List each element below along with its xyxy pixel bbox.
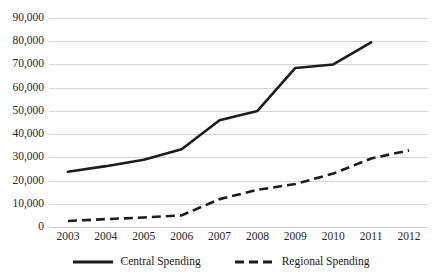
x-axis-tick-label: 2008	[246, 231, 269, 243]
y-axis-tick-label: 60,000	[0, 82, 44, 94]
series-line-central-spending	[68, 42, 371, 171]
line-chart: 90,00080,00070,00060,00050,00040,00030,0…	[0, 0, 443, 279]
x-axis-tick-label: 2006	[170, 231, 193, 243]
legend-label-central-spending: Central Spending	[120, 256, 200, 268]
x-axis-tick-label: 2011	[360, 231, 383, 243]
y-axis-tick-label: 50,000	[0, 105, 44, 117]
x-axis-tick-label: 2009	[284, 231, 307, 243]
y-axis-tick-label: 10,000	[0, 198, 44, 210]
legend-item-regional-spending: Regional Spending	[235, 256, 370, 268]
series-layer	[49, 18, 428, 227]
x-axis-tick-label: 2012	[398, 231, 421, 243]
legend-swatch-dashed-icon	[235, 257, 275, 267]
y-axis-tick-label: 70,000	[0, 59, 44, 71]
series-line-regional-spending	[68, 150, 409, 221]
x-axis-tick-label: 2004	[94, 231, 117, 243]
y-axis-tick-label: 20,000	[0, 175, 44, 187]
y-axis-tick-label: 80,000	[0, 35, 44, 47]
y-axis-tick-label: 90,000	[0, 12, 44, 24]
plot-area	[49, 18, 428, 227]
legend-label-regional-spending: Regional Spending	[282, 256, 370, 268]
gridline	[49, 227, 428, 228]
y-axis-tick-label: 40,000	[0, 128, 44, 140]
y-axis-tick-label: 0	[0, 221, 44, 233]
chart-legend: Central Spending Regional Spending	[0, 256, 443, 268]
legend-item-central-spending: Central Spending	[73, 256, 200, 268]
legend-swatch-solid-icon	[73, 257, 113, 267]
x-axis-tick-label: 2005	[132, 231, 155, 243]
x-axis-tick-label: 2010	[322, 231, 345, 243]
x-axis-tick-label: 2007	[208, 231, 231, 243]
y-axis-tick-label: 30,000	[0, 152, 44, 164]
x-axis-tick-labels: 2003200420052006200720082009201020112012	[49, 231, 428, 249]
x-axis-tick-label: 2003	[56, 231, 79, 243]
